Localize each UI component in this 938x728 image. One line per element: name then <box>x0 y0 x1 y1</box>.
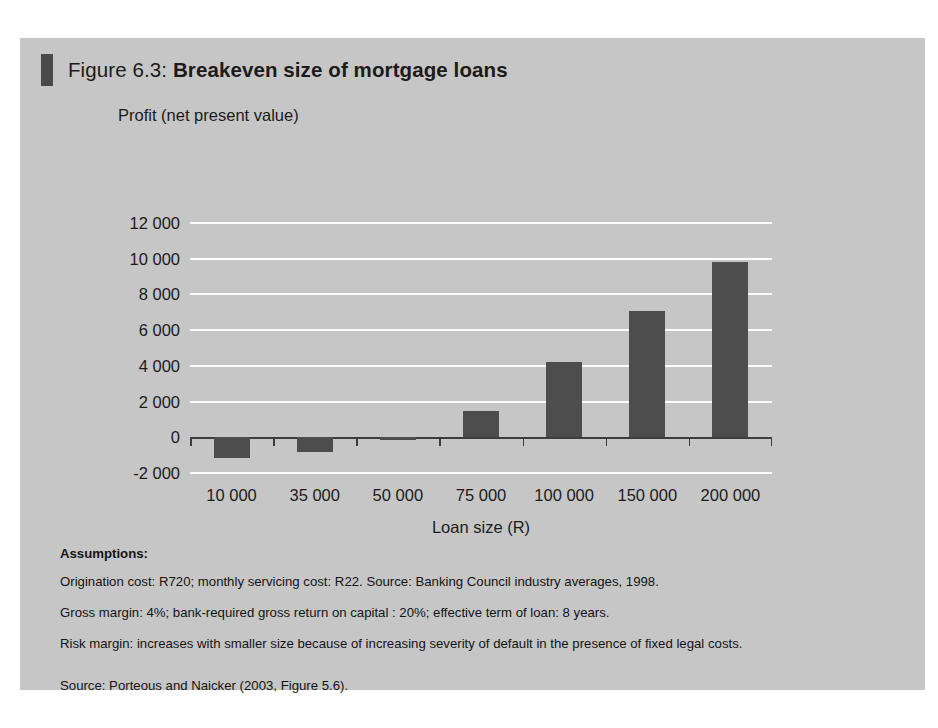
y-axis-tick-labels: 12 00010 0008 0006 0004 0002 0000-2 000 <box>128 223 180 473</box>
x-axis-tick <box>190 437 192 446</box>
figure-title: Breakeven size of mortgage loans <box>173 58 508 81</box>
source-citation: Source: Porteous and Naicker (2003, Figu… <box>60 678 900 693</box>
gridline <box>190 365 772 367</box>
y-tick-label: 8 000 <box>139 285 180 304</box>
gridline <box>190 293 772 295</box>
assumption-line: Origination cost: R720; monthly servicin… <box>60 574 900 589</box>
x-axis-tick <box>356 437 358 446</box>
x-axis-title: Loan size (R) <box>190 518 772 537</box>
assumption-line: Gross margin: 4%; bank-required gross re… <box>60 605 900 620</box>
x-tick-label: 75 000 <box>456 486 506 505</box>
figure-panel: Figure 6.3: Breakeven size of mortgage l… <box>20 38 925 690</box>
gridline <box>190 222 772 224</box>
y-tick-label: -2 000 <box>133 464 180 483</box>
y-axis-title: Profit (net present value) <box>118 106 299 125</box>
zero-axis-line <box>190 437 772 439</box>
x-axis-tick <box>523 437 525 446</box>
plot-region <box>190 223 772 473</box>
gridline <box>190 401 772 403</box>
x-tick-label: 10 000 <box>206 486 256 505</box>
chart-bar <box>214 437 250 458</box>
x-tick-label: 35 000 <box>289 486 339 505</box>
assumptions-block: Assumptions: Origination cost: R720; mon… <box>60 546 900 693</box>
gridline <box>190 258 772 260</box>
assumptions-heading: Assumptions: <box>60 546 900 561</box>
chart-bar <box>712 262 748 437</box>
x-tick-label: 200 000 <box>701 486 761 505</box>
x-tick-label: 150 000 <box>617 486 677 505</box>
x-axis-tick-labels: 10 00035 00050 00075 000100 000150 00020… <box>190 486 772 510</box>
chart-bar <box>380 437 416 440</box>
chart-bar <box>463 411 499 438</box>
y-tick-label: 4 000 <box>139 356 180 375</box>
chart-area: Profit (net present value) 12 00010 0008… <box>20 98 925 538</box>
chart-bar <box>297 437 333 451</box>
x-tick-label: 50 000 <box>373 486 423 505</box>
gridline <box>190 472 772 474</box>
x-axis-tick <box>273 437 275 446</box>
y-tick-label: 2 000 <box>139 392 180 411</box>
x-axis-tick <box>606 437 608 446</box>
title-marker-bar <box>41 54 53 86</box>
x-axis-tick <box>439 437 441 446</box>
gridline <box>190 329 772 331</box>
chart-bar <box>546 362 582 437</box>
chart-bar <box>629 311 665 437</box>
page-title: Figure 6.3: Breakeven size of mortgage l… <box>68 58 508 82</box>
figure-title-row: Figure 6.3: Breakeven size of mortgage l… <box>41 53 508 87</box>
y-tick-label: 6 000 <box>139 321 180 340</box>
y-tick-label: 0 <box>171 428 180 447</box>
x-axis-tick <box>771 437 773 446</box>
x-tick-label: 100 000 <box>534 486 594 505</box>
x-axis-tick <box>689 437 691 446</box>
figure-number: Figure 6.3: <box>68 58 173 81</box>
assumption-line: Risk margin: increases with smaller size… <box>60 636 900 651</box>
y-tick-label: 12 000 <box>130 214 180 233</box>
y-tick-label: 10 000 <box>130 249 180 268</box>
